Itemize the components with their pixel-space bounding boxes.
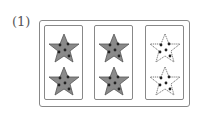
star-icon bbox=[48, 33, 80, 63]
star-icon bbox=[149, 66, 181, 96]
star-icon bbox=[98, 66, 130, 96]
star-icon bbox=[48, 66, 80, 96]
problem-label: (1) bbox=[12, 14, 30, 29]
star-icon bbox=[149, 33, 181, 63]
star-group bbox=[145, 25, 184, 100]
star-group bbox=[44, 25, 83, 100]
star-group bbox=[94, 25, 133, 100]
star-icon bbox=[98, 33, 130, 63]
